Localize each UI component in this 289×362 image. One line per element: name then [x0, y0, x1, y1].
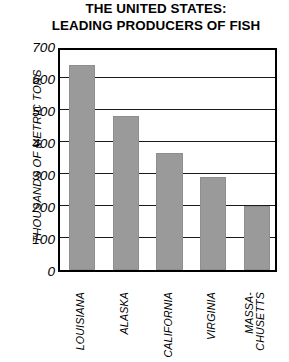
chart-title-line-2: LEADING PRODUCERS OF FISH: [30, 18, 282, 35]
bar-california: [156, 153, 182, 270]
y-tick-label-200: 200: [0, 201, 55, 215]
x-tick-label-line: CALIFORNIA: [163, 292, 174, 362]
y-tick-label-700: 700: [0, 41, 55, 55]
x-tick-label-line: ALASKA: [119, 292, 130, 362]
fish-production-bar-chart: THE UNITED STATES: LEADING PRODUCERS OF …: [0, 0, 289, 362]
x-tick-label-virginia: VIRGINIA: [206, 292, 217, 362]
bar-alaska: [113, 116, 139, 270]
chart-title: THE UNITED STATES: LEADING PRODUCERS OF …: [30, 1, 282, 34]
bars-group: [60, 50, 275, 270]
x-tick-label-line: LOUISIANA: [75, 292, 86, 362]
x-tick-label-louisiana: LOUISIANA: [75, 292, 86, 362]
bar-virginia: [200, 177, 226, 270]
bar-massachusetts: [244, 206, 270, 270]
x-axis-tick-labels: LOUISIANAALASKACALIFORNIAVIRGINIAMASSA-C…: [58, 272, 277, 362]
plot-area: [58, 48, 277, 272]
y-tick-label-500: 500: [0, 105, 55, 119]
y-tick-label-300: 300: [0, 169, 55, 183]
y-tick-label-400: 400: [0, 137, 55, 151]
chart-title-line-1: THE UNITED STATES:: [30, 1, 282, 18]
x-tick-label-line: CHUSETTS: [256, 292, 267, 362]
bar-louisiana: [69, 65, 95, 270]
x-tick-label-massachusetts: MASSA-CHUSETTS: [244, 292, 267, 362]
x-tick-label-california: CALIFORNIA: [163, 292, 174, 362]
x-tick-label-alaska: ALASKA: [119, 292, 130, 362]
y-tick-label-600: 600: [0, 73, 55, 87]
y-tick-label-100: 100: [0, 233, 55, 247]
y-tick-label-0: 0: [0, 265, 55, 279]
x-tick-label-line: VIRGINIA: [206, 292, 217, 362]
